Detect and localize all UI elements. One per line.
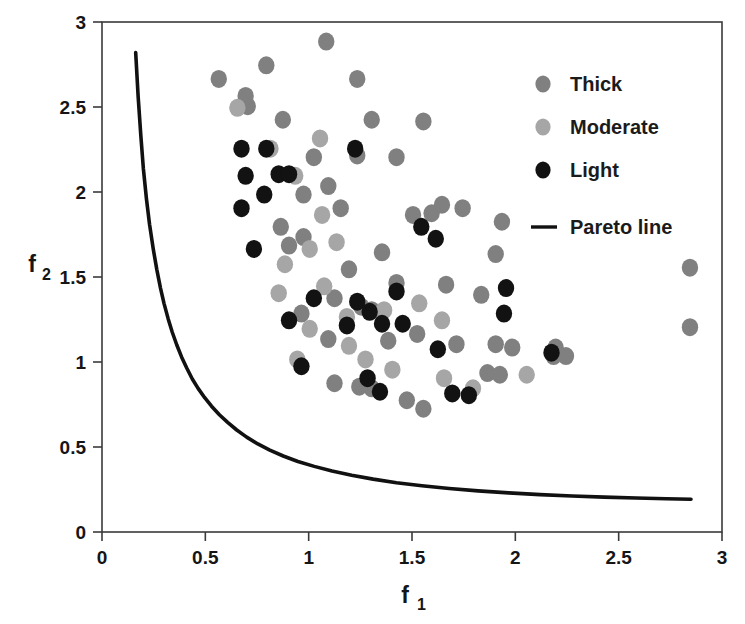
scatter-point <box>682 318 698 336</box>
scatter-point <box>293 357 309 375</box>
scatter-point <box>281 311 297 329</box>
scatter-point <box>326 374 342 392</box>
scatter-point <box>543 344 559 362</box>
scatter-point <box>320 177 336 195</box>
scatter-point <box>395 315 411 333</box>
x-tick-label: 1.5 <box>399 547 426 568</box>
scatter-point <box>380 332 396 350</box>
scatter-point <box>306 148 322 166</box>
scatter-point <box>357 350 373 368</box>
chart-canvas: 00.511.522.53 00.511.522.53 f 1 f 2 Thic… <box>0 0 745 624</box>
scatter-point <box>438 276 454 294</box>
scatter-point <box>496 305 512 323</box>
scatter-point <box>388 282 404 300</box>
scatter-point <box>211 70 227 88</box>
y-tick-label: 0.5 <box>60 437 87 458</box>
y-tick-label: 2.5 <box>60 97 87 118</box>
legend-dot-swatch <box>535 118 550 135</box>
scatter-point <box>454 199 470 217</box>
scatter-point <box>498 279 514 297</box>
scatter-point <box>436 369 452 387</box>
scatter-point <box>281 237 297 255</box>
scatter-point <box>273 218 289 236</box>
scatter-point <box>415 112 431 130</box>
x-axis-title-subscript: 1 <box>417 596 426 613</box>
y-axis-title: f 2 <box>28 251 51 283</box>
y-tick-label: 3 <box>75 12 86 33</box>
scatter-point <box>682 259 698 277</box>
legend-dot-swatch <box>535 75 550 92</box>
y-axis-tick-labels: 00.511.522.53 <box>60 12 87 543</box>
scatter-point <box>233 199 249 217</box>
scatter-point <box>306 289 322 307</box>
scatter-point <box>372 383 388 401</box>
scatter-point <box>359 369 375 387</box>
scatter-point <box>275 111 291 129</box>
scatter-point <box>488 245 504 263</box>
scatter-point <box>341 337 357 355</box>
x-axis-tick-labels: 00.511.522.53 <box>97 547 728 568</box>
scatter-point <box>233 140 249 158</box>
legend-label: Moderate <box>570 116 659 138</box>
scatter-point <box>492 366 508 384</box>
scatter-point <box>384 361 400 379</box>
scatter-point <box>281 165 297 183</box>
scatter-point <box>519 366 535 384</box>
scatter-point <box>444 384 460 402</box>
scatter-point <box>364 111 380 129</box>
x-axis-title-base: f <box>401 582 409 608</box>
scatter-point <box>256 186 272 204</box>
scatter-point <box>320 330 336 348</box>
legend-label: Light <box>570 159 619 181</box>
plot-area-border <box>102 22 722 532</box>
scatter-point <box>271 284 287 302</box>
scatter-point <box>314 206 330 224</box>
y-tick-label: 2 <box>75 182 86 203</box>
scatter-point <box>339 316 355 334</box>
plot-frame <box>102 22 722 532</box>
scatter-point <box>347 140 363 158</box>
y-tick-label: 1.5 <box>60 267 87 288</box>
scatter-point <box>333 199 349 217</box>
scatter-point <box>388 148 404 166</box>
scatter-point <box>302 240 318 258</box>
legend-label: Pareto line <box>570 216 672 238</box>
scatter-point <box>413 218 429 236</box>
legend-label: Thick <box>570 73 623 95</box>
scatter-point <box>461 386 477 404</box>
legend-dot-swatch <box>535 161 550 178</box>
scatter-plot-figure: 00.511.522.53 00.511.522.53 f 1 f 2 Thic… <box>0 0 745 624</box>
x-tick-label: 2 <box>510 547 521 568</box>
scatter-point <box>258 140 274 158</box>
scatter-point <box>399 391 415 409</box>
scatter-point <box>504 339 520 357</box>
y-axis-title-subscript: 2 <box>42 266 51 283</box>
scatter-point <box>361 303 377 321</box>
y-axis-ticks <box>93 22 102 532</box>
scatter-point <box>473 286 489 304</box>
x-tick-label: 2.5 <box>605 547 632 568</box>
y-tick-label: 0 <box>75 522 86 543</box>
scatter-point <box>312 129 328 147</box>
scatter-point <box>246 240 262 258</box>
scatter-point <box>295 186 311 204</box>
scatter-point <box>302 320 318 338</box>
scatter-point <box>411 294 427 312</box>
scatter-point <box>328 233 344 251</box>
x-axis-ticks <box>102 532 722 541</box>
y-tick-label: 1 <box>75 352 86 373</box>
x-tick-label: 1 <box>303 547 314 568</box>
scatter-point <box>374 243 390 261</box>
scatter-point <box>237 167 253 185</box>
scatter-point <box>494 213 510 231</box>
scatter-point <box>448 335 464 353</box>
x-tick-label: 0.5 <box>192 547 219 568</box>
scatter-point <box>409 325 425 343</box>
scatter-point <box>341 260 357 278</box>
scatter-point <box>488 335 504 353</box>
scatter-point <box>434 311 450 329</box>
scatter-point <box>258 56 274 74</box>
scatter-point <box>349 70 365 88</box>
x-tick-label: 3 <box>717 547 728 568</box>
scatter-point <box>428 230 444 248</box>
